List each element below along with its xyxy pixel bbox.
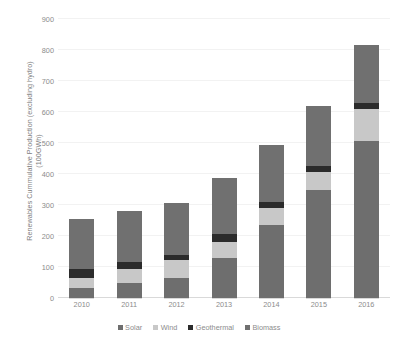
y-tick-label: 100 — [2, 263, 54, 272]
bar-stack — [117, 211, 142, 298]
bar-segment-solar[interactable] — [354, 141, 379, 298]
bar-segment-biomass[interactable] — [164, 203, 189, 255]
bar-group-2011[interactable] — [117, 211, 142, 298]
bar-segment-wind[interactable] — [354, 109, 379, 141]
legend-label: Geothermal — [196, 323, 234, 332]
y-tick-label: 200 — [2, 232, 54, 241]
bar-group-2010[interactable] — [69, 219, 94, 298]
x-tick-label-2014: 2014 — [249, 300, 293, 309]
bar-segment-solar[interactable] — [117, 283, 142, 298]
bar-stack — [164, 203, 189, 298]
legend-item-solar[interactable]: Solar — [118, 323, 143, 332]
x-tick-label-2013: 2013 — [202, 300, 246, 309]
x-tick-mark — [69, 298, 94, 299]
gridline — [58, 18, 390, 19]
y-tick-label: 0 — [2, 294, 54, 303]
x-tick-mark — [354, 298, 379, 299]
gridline — [58, 111, 390, 112]
x-tick-mark — [164, 298, 189, 299]
y-tick-label: 700 — [2, 77, 54, 86]
bar-segment-wind[interactable] — [212, 242, 237, 258]
bar-segment-biomass[interactable] — [69, 219, 94, 269]
bar-stack — [306, 106, 331, 298]
gridline — [58, 80, 390, 81]
legend-item-wind[interactable]: Wind — [153, 323, 177, 332]
bar-stack — [69, 219, 94, 298]
y-tick-label: 400 — [2, 170, 54, 179]
y-axis-tick-labels: 0100200300400500600700800900 — [0, 19, 54, 298]
bar-segment-geothermal[interactable] — [212, 234, 237, 242]
y-tick-label: 500 — [2, 139, 54, 148]
stacked-bar-chart: Renewables Cummulative Production (exclu… — [0, 0, 398, 344]
bar-segment-solar[interactable] — [306, 190, 331, 298]
bar-segment-biomass[interactable] — [306, 106, 331, 166]
x-tick-label-2010: 2010 — [60, 300, 104, 309]
bar-segment-biomass[interactable] — [212, 178, 237, 235]
y-tick-label: 900 — [2, 15, 54, 24]
gridline — [58, 142, 390, 143]
x-tick-mark — [117, 298, 142, 299]
x-tick-label-2015: 2015 — [297, 300, 341, 309]
x-tick-label-2012: 2012 — [155, 300, 199, 309]
bar-segment-solar[interactable] — [164, 278, 189, 298]
legend-item-geothermal[interactable]: Geothermal — [188, 323, 234, 332]
gridline — [58, 49, 390, 50]
bar-stack — [259, 145, 284, 298]
y-tick-label: 800 — [2, 46, 54, 55]
x-tick-label-2011: 2011 — [107, 300, 151, 309]
bar-segment-wind[interactable] — [164, 260, 189, 278]
x-tick-mark — [212, 298, 237, 299]
bar-segment-biomass[interactable] — [117, 211, 142, 262]
bar-segment-wind[interactable] — [117, 269, 142, 284]
bar-segment-wind[interactable] — [259, 208, 284, 225]
legend-swatch-icon — [245, 325, 250, 330]
bar-group-2015[interactable] — [306, 106, 331, 298]
bar-segment-wind[interactable] — [69, 278, 94, 288]
x-tick-mark — [306, 298, 331, 299]
y-tick-label: 600 — [2, 108, 54, 117]
x-tick-label-2016: 2016 — [344, 300, 388, 309]
y-tick-label: 300 — [2, 201, 54, 210]
bar-group-2014[interactable] — [259, 145, 284, 298]
bar-segment-biomass[interactable] — [259, 145, 284, 202]
bar-segment-solar[interactable] — [69, 288, 94, 298]
bar-group-2013[interactable] — [212, 178, 237, 298]
bar-segment-geothermal[interactable] — [69, 269, 94, 278]
legend-label: Wind — [161, 323, 178, 332]
plot-area — [58, 19, 390, 298]
legend-swatch-icon — [153, 325, 158, 330]
legend-item-biomass[interactable]: Biomass — [245, 323, 280, 332]
legend-label: Solar — [125, 323, 142, 332]
bar-segment-biomass[interactable] — [354, 45, 379, 102]
legend-swatch-icon — [188, 325, 193, 330]
x-axis-tick-labels: 2010201120122013201420152016 — [58, 300, 390, 314]
bar-stack — [212, 178, 237, 298]
bar-segment-wind[interactable] — [306, 172, 331, 190]
bar-segment-solar[interactable] — [259, 225, 284, 298]
bar-group-2016[interactable] — [354, 45, 379, 298]
legend-swatch-icon — [118, 325, 123, 330]
chart-legend: SolarWindGeothermalBiomass — [0, 320, 398, 334]
gridline — [58, 173, 390, 174]
bar-stack — [354, 45, 379, 298]
legend-label: Biomass — [252, 323, 280, 332]
bar-segment-solar[interactable] — [212, 258, 237, 298]
bar-group-2012[interactable] — [164, 203, 189, 298]
x-tick-mark — [259, 298, 284, 299]
